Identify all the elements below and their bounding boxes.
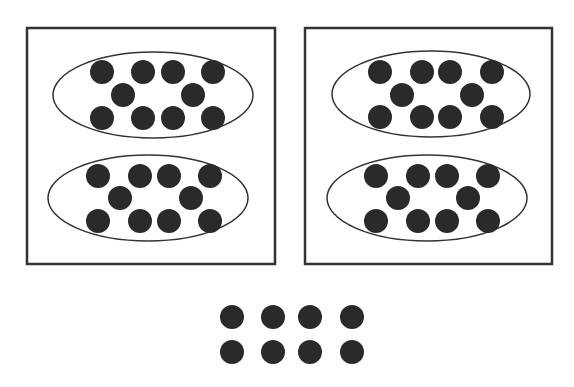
group-dot (438, 60, 462, 84)
group-dot (161, 106, 185, 130)
group-dot (438, 105, 462, 129)
group-dot (476, 209, 500, 233)
group-dot (86, 209, 110, 233)
group-dot (161, 60, 185, 84)
group-dot (179, 186, 203, 210)
loose-dot (340, 305, 364, 329)
group-dot (406, 164, 430, 188)
loose-dot (261, 340, 285, 364)
loose-dot (220, 305, 244, 329)
group-dot (480, 60, 504, 84)
group-dot (111, 83, 135, 107)
group-dot (131, 60, 155, 84)
grouping-diagram (0, 0, 574, 387)
group-dot (456, 186, 480, 210)
group-dot (198, 209, 222, 233)
loose-dot (220, 340, 244, 364)
loose-dot (298, 305, 322, 329)
group-dot (460, 83, 484, 107)
group-dot (128, 164, 152, 188)
group-dot (157, 209, 181, 233)
group-dot (364, 209, 388, 233)
group-dot (386, 186, 410, 210)
group-dot (476, 164, 500, 188)
group-dot (364, 164, 388, 188)
loose-dot (340, 340, 364, 364)
group-dot (201, 60, 225, 84)
group-dot (198, 164, 222, 188)
group-dot (181, 83, 205, 107)
group-dot (410, 105, 434, 129)
group-dot (90, 60, 114, 84)
group-dot (406, 209, 430, 233)
group-dot (410, 60, 434, 84)
group-dot (108, 186, 132, 210)
loose-dot (261, 305, 285, 329)
group-dot (201, 106, 225, 130)
group-dot (368, 60, 392, 84)
group-dot (128, 209, 152, 233)
group-dot (131, 106, 155, 130)
group-dot (435, 209, 459, 233)
loose-dot (298, 340, 322, 364)
group-dot (157, 164, 181, 188)
group-dot (86, 164, 110, 188)
group-dot (90, 106, 114, 130)
group-dot (390, 83, 414, 107)
group-dot (368, 105, 392, 129)
group-ellipse (53, 52, 253, 138)
group-dot (480, 105, 504, 129)
group-dot (435, 164, 459, 188)
